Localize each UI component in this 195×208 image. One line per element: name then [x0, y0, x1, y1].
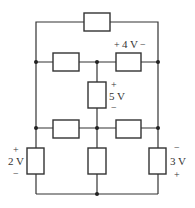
label-2v-plus: + [13, 144, 19, 155]
node-bottom-center [95, 192, 99, 196]
resistor-right-bottom [149, 148, 166, 174]
label-4v-minus: − [140, 39, 146, 50]
resistor-low-left [53, 120, 79, 138]
node-mid-center [95, 60, 99, 64]
node-low-left [34, 126, 38, 130]
label-4v-plus: + [114, 39, 120, 50]
resistors [27, 13, 166, 174]
label-3v-plus: + [174, 169, 180, 180]
resistor-center-bottom [88, 148, 106, 174]
resistor-top [84, 13, 110, 31]
node-low-center [95, 126, 99, 130]
label-5v-minus: − [111, 102, 117, 113]
resistor-left-bottom [27, 148, 44, 174]
node-mid-left [34, 60, 38, 64]
circuit-diagram: + 4 V − + 5 V − + 2 V − − 3 V + [0, 0, 195, 208]
node-mid-right [156, 60, 160, 64]
label-3v: − 3 V + [170, 142, 186, 180]
label-3v-minus: − [174, 142, 180, 153]
label-4v: + 4 V − [114, 38, 146, 50]
label-3v-value: 3 V [170, 155, 186, 167]
label-2v: + 2 V − [8, 144, 24, 179]
label-5v-value: 5 V [109, 90, 125, 102]
label-5v-plus: + [111, 79, 117, 90]
label-5v: + 5 V − [109, 79, 125, 113]
resistor-mid-left [53, 53, 79, 71]
resistor-mid-right [116, 53, 141, 71]
resistor-low-right [116, 120, 141, 138]
label-2v-value: 2 V [8, 155, 24, 167]
resistor-center-vertical [88, 82, 106, 108]
node-low-right [156, 126, 160, 130]
label-2v-minus: − [13, 168, 19, 179]
label-4v-value: 4 V [122, 38, 138, 50]
